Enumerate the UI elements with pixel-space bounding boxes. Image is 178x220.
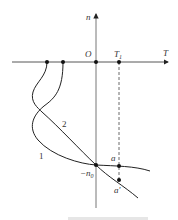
curve-1-label: 1 <box>39 151 44 161</box>
origin-dot <box>94 60 98 64</box>
t1-label-sub: 1 <box>119 54 122 60</box>
point-a-dot <box>117 164 121 168</box>
curve-2-start-dot <box>45 60 49 64</box>
diagram-canvas: n T O T1 −n0 a a′ 1 2 <box>0 0 178 220</box>
curve-2-label: 2 <box>62 119 67 129</box>
neg-n0-label: −n0 <box>80 168 94 179</box>
neg-n0-dot <box>94 163 98 167</box>
origin-label: O <box>85 49 92 59</box>
t-axis-label: T <box>163 48 169 58</box>
n-axis-label: n <box>86 12 91 22</box>
curve-1 <box>32 62 150 171</box>
t1-dot <box>117 60 121 64</box>
neg-n0-sub: 0 <box>91 173 94 179</box>
point-a-prime-dot <box>117 178 121 182</box>
point-a-label: a <box>111 153 116 163</box>
point-a-prime-label: a′ <box>114 185 122 195</box>
curve-1-start-dot <box>61 60 65 64</box>
neg-n0-main: −n <box>80 168 91 178</box>
t1-label: T1 <box>114 49 122 60</box>
caption-fragment <box>68 217 148 220</box>
